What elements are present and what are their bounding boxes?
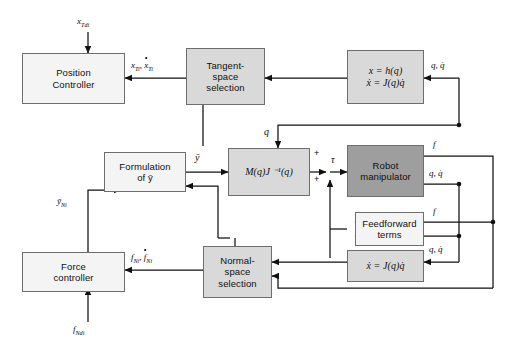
label-q-qdot-top-text: q, q̇ (431, 60, 445, 70)
block-position-controller-line-2: Controller (52, 79, 94, 90)
label-f-Ndi: fNdi (73, 324, 84, 336)
label-x-Ti-comma: , (140, 60, 142, 70)
block-force-controller[interactable]: Force controller (22, 252, 125, 292)
junction-dot-bus-q (457, 123, 462, 128)
label-sum-plus-upper: + (314, 148, 319, 158)
label-tau: τ (331, 154, 335, 165)
label-q-mid: q (264, 126, 269, 137)
block-tangent-line-1: Tangent- (207, 60, 245, 71)
label-f-feedforward-text: f (433, 206, 436, 216)
label-x-Tdi-sub: Tdi (81, 22, 89, 28)
block-forward-kinematics-line-2: ẋ = J(q)q̇ (366, 77, 404, 89)
block-feedforward-line-1: Feedforward (362, 218, 416, 229)
label-ybar-mid: ȳ (195, 152, 199, 163)
label-f-feedforward: f (433, 206, 436, 216)
block-tangent-line-3: selection (206, 82, 244, 93)
block-differential-kinematics-line-1: ẋ = J(q)q̇ (366, 260, 404, 272)
block-tangent-space-selection[interactable]: Tangent- space selection (186, 48, 265, 105)
block-formulation-of-ybar[interactable]: Formulation of ȳ (104, 152, 186, 192)
label-q-mid-text: q (264, 126, 269, 137)
label-fdot-Ni-sub: Ni (146, 258, 152, 264)
block-diagram-canvas: Position Controller Tangent- space selec… (0, 0, 513, 346)
block-forward-kinematics-line-1: x = h(q) (369, 65, 403, 77)
block-normal-line-2: space (225, 266, 251, 277)
block-differential-kinematics[interactable]: ẋ = J(q)q̇ (347, 250, 424, 282)
label-ybar-mid-text: ȳ (195, 152, 199, 163)
label-f-top: f (433, 139, 436, 149)
label-q-qdot-robot: q, q̇ (429, 168, 443, 178)
block-force-controller-line-1: Force (61, 261, 86, 272)
label-q-qdot-diffkin-text: q, q̇ (429, 244, 443, 254)
label-sum-plus-lower: + (314, 174, 319, 184)
label-f-Ni-pair: fNi, fNi (131, 252, 152, 264)
block-feedforward-terms[interactable]: Feedforward terms (355, 212, 424, 246)
block-robot-line-1: Robot (373, 160, 399, 171)
block-feedforward-line-2: terms (377, 229, 401, 240)
overdot-marker-xti (145, 57, 147, 59)
wire-ybarni-to-formulation (88, 190, 121, 252)
label-sum-plus-upper-text: + (314, 148, 319, 158)
label-x-Tdi: xTdi (77, 16, 89, 28)
block-normal-line-3: selection (218, 278, 256, 289)
wire-inertia-feedback-to-formulation (186, 186, 218, 196)
block-inertia-jacobian[interactable]: M(q)J ⁻¹(q) (228, 148, 310, 196)
label-xdot-Ti: x (144, 60, 148, 70)
overdot-marker-fni (144, 249, 146, 251)
junction-dot-bus-qqdot (457, 182, 462, 187)
block-normal-line-1: Normal- (220, 255, 254, 266)
block-force-controller-line-2: controller (53, 272, 93, 283)
block-robot-manipulator[interactable]: Robot manipulator (347, 145, 424, 197)
label-f-top-text: f (433, 139, 436, 149)
label-f-Ni-comma: , (139, 252, 141, 262)
junction-dot-bus-qqdot-ff (457, 234, 462, 239)
label-xdot-Ti-base: x (144, 60, 148, 70)
label-q-qdot-top: q, q̇ (431, 60, 445, 70)
label-q-qdot-robot-text: q, q̇ (429, 168, 443, 178)
block-position-controller-line-1: Position (56, 67, 91, 78)
block-inertia-jacobian-line-1: M(q)J ⁻¹(q) (245, 166, 293, 178)
label-ybar-Ni-sub: Ni (61, 202, 67, 208)
label-fdot-Ni: f (144, 252, 147, 262)
label-fdot-Ni-base: f (144, 252, 147, 262)
junction-dot-bus-f-upper (491, 220, 496, 225)
label-sum-plus-lower-text: + (314, 174, 319, 184)
label-xdot-Ti-sub: Ti (148, 66, 153, 72)
block-tangent-line-2: space (213, 71, 239, 82)
block-robot-line-2: manipulator (360, 171, 411, 182)
label-tau-text: τ (331, 154, 335, 165)
block-formulation-line-1: Formulation (119, 161, 170, 172)
label-x-Ti-pair: xTi, xTi (131, 60, 153, 72)
block-position-controller[interactable]: Position Controller (22, 53, 125, 104)
block-forward-kinematics[interactable]: x = h(q) ẋ = J(q)q̇ (347, 50, 424, 104)
block-formulation-line-2: of ȳ (137, 172, 153, 183)
label-q-qdot-diffkin: q, q̇ (429, 244, 443, 254)
label-ybar-Ni: ȳNi (57, 196, 67, 208)
junction-dots (457, 123, 496, 239)
block-normal-space-selection[interactable]: Normal- space selection (203, 246, 272, 298)
label-f-Ndi-sub: Ndi (76, 330, 85, 336)
